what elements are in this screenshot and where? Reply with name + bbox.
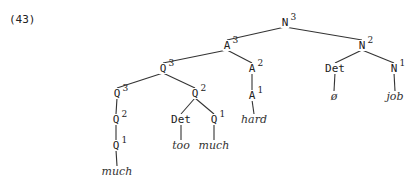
node-category: N xyxy=(282,16,289,29)
tree-edge xyxy=(394,73,395,91)
bar-level: 2 xyxy=(367,35,373,45)
tree-edge xyxy=(362,50,394,63)
node-category: A xyxy=(224,39,231,52)
tree-node-a3: A3 xyxy=(223,35,239,52)
tree-node-n3: N3 xyxy=(281,12,297,29)
tree-edge xyxy=(116,150,117,166)
tree-node-q1left: Q1 xyxy=(112,135,128,152)
tree-node-q2right: Q2 xyxy=(191,83,207,100)
bar-level: 1 xyxy=(121,135,127,145)
bar-level: 1 xyxy=(219,109,225,119)
tree-diagram: (43) N3A3N2Q3A2DetN1Q3Q2A1Q2DetQ1Q1 jobø… xyxy=(0,0,415,180)
bar-level: 3 xyxy=(122,83,128,93)
node-category: Q xyxy=(211,113,218,126)
node-category: Q xyxy=(160,62,167,75)
leaf-word-w_job: job xyxy=(383,90,403,103)
tree-node-q3left: Q3 xyxy=(113,83,129,100)
leaf-word-w_hard: hard xyxy=(241,113,267,126)
bar-level: 1 xyxy=(399,58,405,68)
bar-level: 3 xyxy=(290,12,296,22)
node-category: Det xyxy=(325,62,345,75)
tree-edge xyxy=(163,73,195,88)
tree-node-a2: A2 xyxy=(248,58,264,75)
bar-level: 1 xyxy=(257,85,263,95)
node-category: Q xyxy=(113,139,120,152)
tree-edge xyxy=(181,98,195,114)
node-category: N xyxy=(391,62,398,75)
node-category: A xyxy=(249,89,256,102)
bar-level: 2 xyxy=(257,58,263,68)
tree-edge xyxy=(285,27,362,40)
bar-level: 2 xyxy=(121,109,127,119)
syntax-tree-svg: (43) N3A3N2Q3A2DetN1Q3Q2A1Q2DetQ1Q1 jobø… xyxy=(0,0,415,180)
tree-node-n2: N2 xyxy=(358,35,374,52)
tree-node-q3top: Q3 xyxy=(159,58,175,75)
bar-level: 3 xyxy=(232,35,238,45)
leaf-word-w_too: too xyxy=(172,139,190,152)
leaf-word-w_much2: much xyxy=(199,139,230,152)
node-category: Q xyxy=(113,113,120,126)
tree-node-det_np: Det xyxy=(324,62,346,75)
tree-node-a1: A1 xyxy=(248,85,264,102)
bar-level: 2 xyxy=(200,83,206,93)
tree-edge xyxy=(195,98,214,114)
leaf-word-w_much1: much xyxy=(102,165,133,178)
tree-node-det_q: Det xyxy=(170,113,192,126)
leaf-word-w_null: ø xyxy=(330,90,338,103)
tree-edge xyxy=(252,100,254,114)
node-category: Det xyxy=(171,113,191,126)
tree-edge xyxy=(334,73,335,91)
node-category: N xyxy=(359,39,366,52)
node-category: Q xyxy=(192,87,199,100)
node-category: A xyxy=(249,62,256,75)
example-number: (43) xyxy=(9,13,36,26)
tree-edge xyxy=(116,98,117,114)
tree-node-n1: N1 xyxy=(390,58,406,75)
node-category: Q xyxy=(114,87,121,100)
bar-level: 3 xyxy=(168,58,174,68)
tree-node-q2left: Q2 xyxy=(112,109,128,126)
